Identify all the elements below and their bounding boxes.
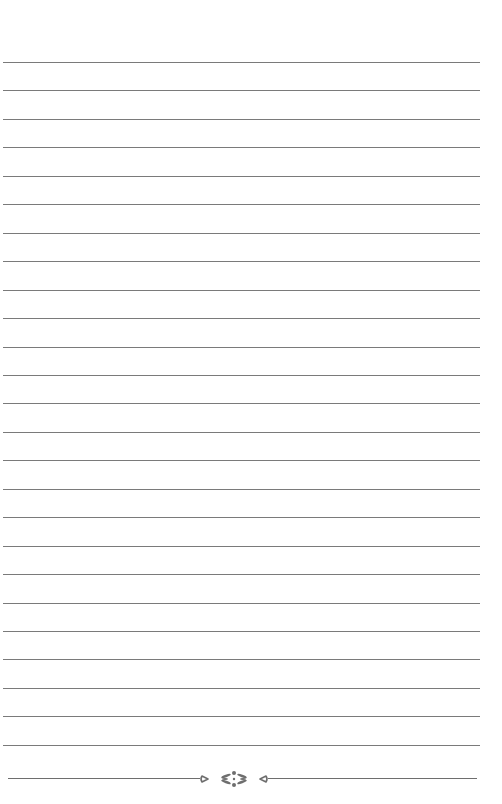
ruled-line [3, 603, 480, 604]
ruled-line [3, 659, 480, 660]
ruled-line [3, 347, 480, 348]
ruled-line [3, 90, 480, 91]
ruled-line [3, 517, 480, 518]
ruled-line [3, 432, 480, 433]
ruled-line [3, 688, 480, 689]
ruled-line [3, 318, 480, 319]
ruled-line [3, 375, 480, 376]
ruled-line [3, 176, 480, 177]
ruled-line [3, 574, 480, 575]
ruled-line [3, 147, 480, 148]
ruled-line [3, 261, 480, 262]
ruled-line [3, 546, 480, 547]
ruled-line [3, 290, 480, 291]
ruled-line [3, 489, 480, 490]
ruled-line [3, 62, 480, 63]
divider-line-right [268, 778, 477, 779]
ruled-line [3, 204, 480, 205]
ruled-line [3, 233, 480, 234]
ruled-line [3, 460, 480, 461]
ruled-line [3, 119, 480, 120]
ruled-line [3, 745, 480, 746]
footer-ornament-divider [0, 770, 502, 788]
lined-paper-page [0, 0, 502, 804]
ruled-line [3, 716, 480, 717]
ruled-line [3, 403, 480, 404]
ruled-line [3, 631, 480, 632]
floral-divider-icon [198, 770, 270, 788]
divider-line-left [8, 778, 200, 779]
